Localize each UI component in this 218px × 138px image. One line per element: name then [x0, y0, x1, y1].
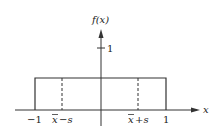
- x-axis-arrow-icon: [191, 108, 200, 113]
- x-tick-label-neg1: −1: [27, 114, 42, 125]
- xbar-symbol: x: [52, 114, 58, 125]
- y-tick-label-1: 1: [107, 43, 113, 54]
- uniform-density-plot: x f(x) 1 −1 x −s x +s 1: [0, 0, 218, 138]
- xbar-symbol: x: [128, 114, 134, 125]
- x-tick-label-lower: x −s: [52, 114, 73, 125]
- minus-s-text: −s: [59, 114, 73, 125]
- y-axis-label: f(x): [91, 14, 109, 25]
- x-tick-label-1: 1: [163, 114, 169, 125]
- y-axis-arrow-icon: [99, 29, 104, 38]
- x-tick-label-upper: x +s: [128, 114, 149, 125]
- plus-s-text: +s: [135, 114, 149, 125]
- x-axis-label: x: [203, 104, 209, 115]
